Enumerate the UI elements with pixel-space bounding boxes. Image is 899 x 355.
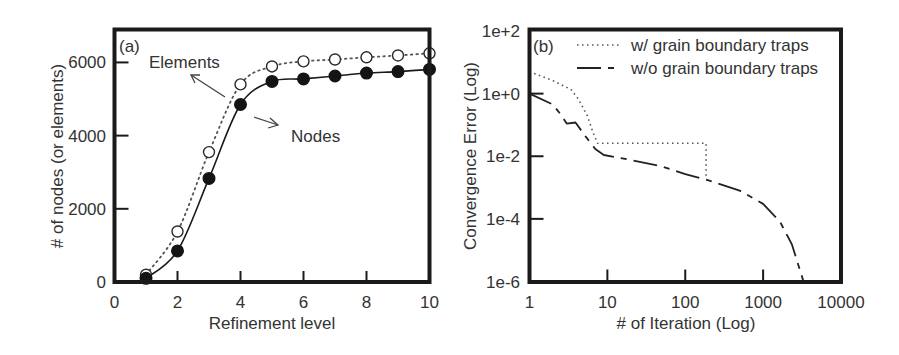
b-y-tick-label: 1e-6 [486, 273, 520, 292]
b-x-axis-title: # of Iteration (Log) [617, 314, 756, 333]
a-marker-nodes [203, 173, 215, 185]
panel-a-chart: # of nodes (or elements) Refinement leve… [48, 30, 439, 334]
b-series-group [530, 72, 804, 282]
annotation-nodes-label: Nodes [291, 127, 340, 146]
b-y-tick-label: 1e+2 [482, 22, 520, 41]
a-marker-nodes [235, 99, 247, 111]
a-y-axis-title-group: # of nodes (or elements) [48, 64, 67, 248]
a-marker-elements [298, 56, 309, 67]
a-x-tick-label: 4 [236, 293, 245, 312]
b-y-ticks: 1e+21e+01e-21e-41e-6 [482, 22, 544, 292]
a-marker-elements [393, 50, 404, 61]
a-y-tick-label: 6000 [68, 53, 106, 72]
a-x-ticks: 0246810 [110, 271, 439, 312]
a-x-tick-label: 6 [299, 293, 308, 312]
a-y-ticks: 0200040006000 [68, 53, 128, 292]
a-y-tick-label: 2000 [68, 200, 106, 219]
a-series-group [140, 48, 435, 284]
a-x-tick-label: 2 [173, 293, 182, 312]
a-marker-elements [172, 226, 183, 237]
a-marker-nodes [266, 76, 278, 88]
legend: w/ grain boundary traps w/o grain bounda… [577, 36, 818, 78]
annotation-nodes-arrow-icon [254, 117, 278, 128]
a-marker-nodes [298, 73, 310, 85]
annotation-elements-arrow-icon [191, 75, 225, 97]
a-x-tick-label: 0 [110, 293, 119, 312]
legend-label-with-traps: w/ grain boundary traps [630, 36, 809, 55]
a-marker-nodes [172, 245, 184, 257]
a-marker-nodes [392, 66, 404, 78]
legend-label-without-traps: w/o grain boundary traps [630, 59, 818, 78]
a-marker-nodes [361, 67, 373, 79]
annotation-elements-label: Elements [149, 53, 220, 72]
a-x-tick-label: 8 [362, 293, 371, 312]
b-x-tick-label: 100 [671, 293, 699, 312]
b-x-tick-label: 10000 [817, 293, 864, 312]
a-y-tick-label: 4000 [68, 127, 106, 146]
a-panel-label: (a) [119, 37, 140, 56]
b-series-line-without-traps [530, 94, 804, 282]
b-panel-label: (b) [533, 37, 554, 56]
a-series-line-nodes [146, 69, 430, 278]
b-y-tick-label: 1e-2 [486, 147, 520, 166]
figure: # of nodes (or elements) Refinement leve… [0, 0, 899, 355]
panel-b-chart: Convergence Error (Log) # of Iteration (… [461, 22, 865, 333]
b-x-tick-label: 10 [598, 293, 617, 312]
a-marker-elements [330, 54, 341, 65]
b-y-tick-label: 1e+0 [482, 85, 520, 104]
b-x-tick-label: 1000 [744, 293, 782, 312]
b-series-line-with-traps [530, 72, 707, 179]
a-marker-elements [361, 52, 372, 63]
a-series-line-elements [146, 53, 430, 274]
a-y-tick-label: 0 [97, 273, 106, 292]
b-y-tick-label: 1e-4 [486, 210, 520, 229]
a-marker-elements [235, 79, 246, 90]
b-x-tick-label: 1 [525, 293, 534, 312]
a-marker-elements [267, 61, 278, 72]
b-x-ticks: 110100100010000 [525, 270, 865, 313]
a-marker-nodes [329, 70, 341, 82]
a-y-axis-title: # of nodes (or elements) [48, 64, 67, 248]
a-x-axis-title: Refinement level [209, 314, 336, 333]
a-x-tick-label: 10 [420, 293, 439, 312]
b-y-axis-title: Convergence Error (Log) [461, 62, 480, 250]
a-marker-elements [204, 147, 215, 158]
